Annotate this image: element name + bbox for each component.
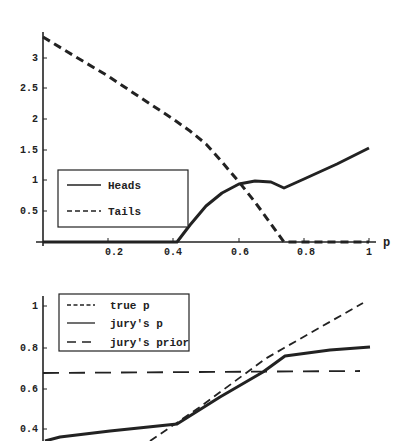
x-axis-label: p bbox=[383, 236, 390, 250]
bottom-y-tick-labels: 0.4 0.6 0.8 1 bbox=[20, 301, 38, 435]
figure: 0.5 1 1.5 2 2.5 3 0.2 0.4 0.6 0.8 1 p bbox=[0, 0, 410, 441]
legend-label-heads: Heads bbox=[108, 180, 141, 192]
y-tick-label: 1 bbox=[32, 301, 38, 312]
y-tick-label: 0.6 bbox=[20, 384, 38, 395]
top-y-tick-labels: 0.5 1 1.5 2 2.5 3 bbox=[20, 53, 38, 217]
bottom-legend: true p jury's p jury's prior bbox=[59, 294, 189, 351]
y-tick-label: 1.5 bbox=[20, 145, 38, 156]
x-tick-label: 0.4 bbox=[164, 247, 182, 258]
y-tick-label: 1 bbox=[32, 175, 38, 186]
x-tick-label: 0.2 bbox=[105, 247, 123, 258]
top-legend: Heads Tails bbox=[58, 170, 188, 227]
x-tick-label: 0.8 bbox=[297, 247, 315, 258]
x-tick-label: 1 bbox=[366, 247, 372, 258]
y-tick-label: 0.5 bbox=[20, 206, 38, 217]
legend-label-jurys-prior: jury's prior bbox=[110, 337, 189, 349]
x-tick-label: 0.6 bbox=[231, 247, 249, 258]
y-tick-label: 0.4 bbox=[20, 424, 38, 435]
legend-label-true-p: true p bbox=[110, 300, 150, 312]
y-tick-label: 0.8 bbox=[20, 343, 38, 354]
bottom-chart: 0.4 0.6 0.8 1 true p jury's p jury's pri… bbox=[20, 294, 370, 441]
top-x-tick-labels: 0.2 0.4 0.6 0.8 1 bbox=[105, 247, 372, 258]
legend-label-tails: Tails bbox=[108, 206, 141, 218]
legend-label-jurys-p: jury's p bbox=[110, 318, 163, 330]
series-jurys-p bbox=[45, 347, 370, 441]
y-tick-label: 3 bbox=[32, 53, 38, 64]
y-tick-label: 2 bbox=[32, 114, 38, 125]
top-chart: 0.5 1 1.5 2 2.5 3 0.2 0.4 0.6 0.8 1 p bbox=[20, 32, 390, 258]
y-tick-label: 2.5 bbox=[20, 83, 38, 94]
series-jurys-prior bbox=[43, 371, 360, 373]
